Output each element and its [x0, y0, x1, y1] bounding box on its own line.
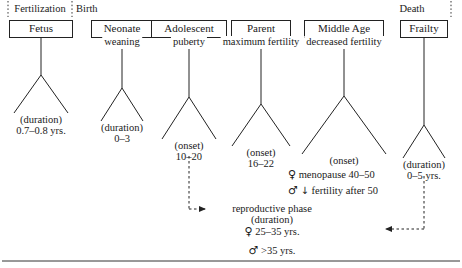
stage-triangle-frailty — [403, 125, 445, 158]
era-divider-group — [8, 1, 451, 17]
stage-note-adolescent: (onset)10–20 — [174, 140, 203, 162]
stage-box-frailty: Frailty — [400, 20, 448, 38]
note-line: 0–3 — [101, 133, 143, 144]
stage-triangle-middle-age — [302, 96, 386, 154]
down-arrow-icon: ↓ — [301, 185, 309, 196]
note-line: (duration) — [101, 122, 143, 133]
stage-triangle-neonate — [101, 88, 143, 121]
menopause-annotation: ♀ menopause 40–50 — [288, 168, 375, 181]
note-line: 0.7–0.8 yrs. — [16, 125, 66, 136]
era-label-fertilization: Fertilization — [14, 3, 65, 14]
reproductive-phase-subheading: (duration) — [232, 214, 312, 225]
reproductive-phase-male-row: ♂ >35 yrs. — [232, 244, 312, 257]
life-history-diagram: FertilizationBirthDeath FetusNeonateAdol… — [0, 0, 462, 268]
stage-triangle-adolescent — [162, 97, 216, 139]
note-line: (duration) — [16, 114, 66, 125]
stage-note-middle-age: (onset) — [329, 155, 358, 166]
note-line: 10–20 — [174, 151, 203, 162]
male-fertility-text: fertility after 50 — [312, 185, 378, 196]
female-symbol-icon: ♀ — [244, 225, 252, 238]
era-label-death: Death — [399, 3, 424, 14]
era-label-birth: Birth — [76, 3, 98, 14]
stage-note-frailty: (duration)0–5 yrs. — [403, 159, 445, 181]
note-line: (duration) — [403, 159, 445, 170]
stage-box-fetus: Fetus — [9, 20, 73, 38]
note-line: (onset) — [174, 140, 203, 151]
reproductive-phase-annotation: reproductive phase (duration) ♀ 25–35 yr… — [232, 203, 312, 257]
male-symbol-icon: ♂ — [288, 184, 298, 197]
menopause-text: menopause 40–50 — [299, 169, 375, 180]
reproductive-phase-heading: reproductive phase — [232, 203, 312, 214]
stage-sublabel-neonate: weaning — [102, 36, 142, 47]
stage-sublabel-parent: maximum fertility — [221, 36, 302, 47]
note-line: 0–5 yrs. — [403, 170, 445, 181]
stage-note-neonate: (duration)0–3 — [101, 122, 143, 144]
reproductive-phase-female-row: ♀ 25–35 yrs. — [232, 225, 312, 238]
female-symbol-icon: ♀ — [288, 168, 296, 181]
stage-sublabel-adolescent: puberty — [171, 36, 207, 47]
stage-sublabel-middle-age: decreased fertility — [304, 36, 384, 47]
male-fertility-annotation: ♂ ↓ fertility after 50 — [288, 184, 378, 197]
stage-triangle-parent — [232, 104, 290, 146]
note-line: 16–22 — [246, 158, 275, 169]
stage-triangle-fetus — [14, 75, 68, 113]
note-line: (onset) — [329, 155, 358, 166]
reproductive-phase-female-value: 25–35 yrs. — [255, 226, 299, 237]
stage-line-group — [14, 36, 445, 158]
stage-note-parent: (onset)16–22 — [246, 147, 275, 169]
male-symbol-icon: ♂ — [248, 244, 258, 257]
note-line: (onset) — [246, 147, 275, 158]
stage-note-fetus: (duration)0.7–0.8 yrs. — [16, 114, 66, 136]
reproductive-phase-male-value: >35 yrs. — [261, 245, 296, 256]
